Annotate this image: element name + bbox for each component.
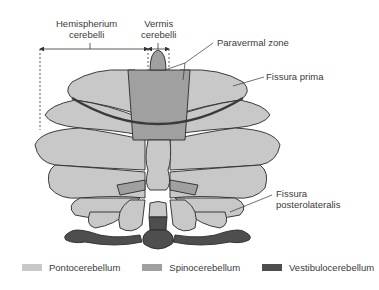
lobule-right-3 xyxy=(170,128,280,170)
paravermal-label: Paravermal zone xyxy=(217,37,289,48)
swatch-spino xyxy=(142,264,162,271)
hemispherium-line2: cerebelli xyxy=(56,29,117,40)
vermis-line2: cerebelli xyxy=(141,29,176,40)
swatch-ponto xyxy=(22,264,42,271)
vermis-top xyxy=(150,50,166,70)
flocculus-right xyxy=(173,230,250,245)
fissura-posterolateralis-label: Fissura posterolateralis xyxy=(276,188,340,210)
fissura-postero-line1: Fissura xyxy=(276,188,340,199)
lobule-left-3 xyxy=(35,128,145,170)
vermis-line1: Vermis xyxy=(141,18,176,29)
paravermal-zone xyxy=(128,70,190,140)
hemispherium-label: Hemispherium cerebelli xyxy=(56,18,117,40)
nodulus-spino-part xyxy=(149,217,167,230)
leader-paravermal xyxy=(185,43,213,63)
flocculus-left xyxy=(65,230,142,245)
legend-item-spino: Spinocerebellum xyxy=(142,262,240,273)
vermis-central xyxy=(146,140,171,190)
fissura-prima-label: Fissura prima xyxy=(266,71,324,82)
legend-label-ponto: Pontocerebellum xyxy=(49,262,120,273)
legend-label-vestibulo: Vestibulocerebellum xyxy=(289,262,374,273)
legend-label-spino: Spinocerebellum xyxy=(169,262,240,273)
legend-item-ponto: Pontocerebellum xyxy=(22,262,120,273)
vermis-label: Vermis cerebelli xyxy=(141,18,176,40)
nodulus xyxy=(143,230,173,249)
hemispherium-line1: Hemispherium xyxy=(56,18,117,29)
legend: Pontocerebellum Spinocerebellum Vestibul… xyxy=(22,262,379,273)
fissura-postero-line2: posterolateralis xyxy=(276,199,340,210)
legend-item-vestibulo: Vestibulocerebellum xyxy=(262,262,374,273)
uvula xyxy=(149,202,167,218)
swatch-vestibulo xyxy=(262,264,282,271)
